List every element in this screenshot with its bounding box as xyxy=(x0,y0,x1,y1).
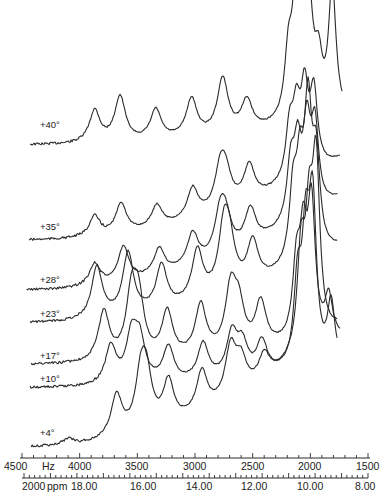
hz-tick-4500: 4500 xyxy=(4,460,28,472)
ppm-tick-12: 12.00 xyxy=(241,480,267,492)
spectrum-trace xyxy=(29,68,340,240)
temperature-label: +23° xyxy=(40,308,60,319)
ppm-tick-8: 8.00 xyxy=(355,480,376,492)
ppm-tick-10: 10.00 xyxy=(297,480,323,492)
spectrum-trace xyxy=(27,100,338,290)
spectrum-trace xyxy=(30,0,342,145)
temperature-label: +17° xyxy=(40,350,60,361)
ppm-unit-label: ppm xyxy=(47,480,68,492)
ppm-tick-2000: 2000 xyxy=(22,480,46,492)
temperature-label: +40° xyxy=(40,119,60,130)
hz-tick-1500: 1500 xyxy=(356,460,380,472)
hz-tick-3500: 3500 xyxy=(125,460,149,472)
hz-axis: 4500 Hz 4000 3500 3000 2500 2000 1500 xyxy=(4,453,380,472)
hz-tick-3000: 3000 xyxy=(183,460,207,472)
hz-tick-2500: 2500 xyxy=(241,460,265,472)
ppm-tick-18: 18.00 xyxy=(71,480,97,492)
ppm-tick-14: 14.00 xyxy=(186,480,212,492)
ppm-ticks xyxy=(24,473,368,478)
temperature-label: +10° xyxy=(40,373,60,384)
nmr-spectra-figure: +40°+35°+28°+23°+17°+10°+4° 4500 Hz 4000… xyxy=(0,0,387,502)
temperature-label: +35° xyxy=(40,221,60,232)
ppm-axis: 2000 ppm 18.00 16.00 14.00 12.00 10.00 8… xyxy=(22,473,376,492)
temperature-label: +28° xyxy=(40,274,60,285)
temperature-labels: +40°+35°+28°+23°+17°+10°+4° xyxy=(40,119,60,438)
ppm-tick-16: 16.00 xyxy=(130,480,156,492)
spectrum-trace xyxy=(30,171,337,389)
spectrum-trace xyxy=(31,183,340,365)
spectra-traces xyxy=(27,0,343,447)
hz-unit-label: Hz xyxy=(42,460,55,472)
hz-ticks xyxy=(22,453,368,458)
temperature-label: +4° xyxy=(40,427,55,438)
hz-tick-4000: 4000 xyxy=(68,460,92,472)
hz-tick-2000: 2000 xyxy=(298,460,322,472)
